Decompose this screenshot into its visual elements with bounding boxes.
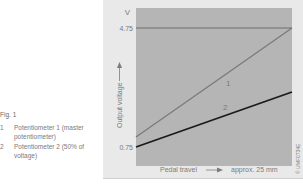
watermark: © UMF0734E bbox=[295, 143, 301, 174]
chart-panel: V 4.75 0.75 Output voltage 1 2 Pedal tra… bbox=[103, 0, 303, 179]
arrow-icon bbox=[117, 62, 122, 68]
legend-text: Potentiometer 2 (50% of voltage) bbox=[14, 142, 100, 161]
figure-number: Fig. 1 bbox=[0, 110, 100, 120]
x-axis-label: Pedal travel bbox=[160, 166, 197, 173]
legend-item-2: 2 Potentiometer 2 (50% of voltage) bbox=[0, 142, 100, 161]
svg-text:Output voltage: Output voltage bbox=[116, 82, 124, 128]
series-1-label: 1 bbox=[226, 79, 231, 88]
figure-caption: Fig. 1 1 Potentiometer 1 (master potenti… bbox=[0, 110, 100, 161]
arrow-icon bbox=[217, 168, 223, 173]
y-tick-top: 4.75 bbox=[119, 25, 133, 32]
plot-area bbox=[136, 8, 292, 166]
legend-item-1: 1 Potentiometer 1 (master potentiometer) bbox=[0, 123, 100, 142]
legend-number: 2 bbox=[0, 142, 14, 161]
series-2-label: 2 bbox=[223, 103, 228, 112]
legend-number: 1 bbox=[0, 123, 14, 142]
y-tick-bottom: 0.75 bbox=[119, 144, 133, 151]
y-unit: V bbox=[125, 8, 131, 17]
y-axis-label: Output voltage bbox=[116, 62, 124, 128]
chart: V 4.75 0.75 Output voltage 1 2 Pedal tra… bbox=[103, 0, 303, 178]
legend-text: Potentiometer 1 (master potentiometer) bbox=[14, 123, 100, 142]
x-axis-range: approx. 25 mm bbox=[231, 166, 278, 174]
